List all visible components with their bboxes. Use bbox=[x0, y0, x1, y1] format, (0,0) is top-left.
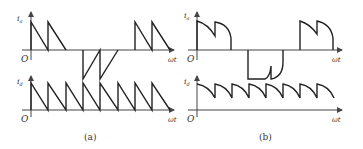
origin-label-bottom-a: O bbox=[21, 114, 29, 124]
y-label-bottom-a: id bbox=[17, 77, 23, 87]
panel-a: ia O ωt id O ωt (a) bbox=[17, 12, 177, 142]
y-label-top-b: ia bbox=[184, 11, 190, 21]
origin-label-top-b: O bbox=[187, 54, 195, 64]
origin-label-bottom-b: O bbox=[187, 114, 195, 124]
x-label-bottom-a: ωt bbox=[168, 116, 177, 124]
x-label-bottom-b: ωt bbox=[332, 116, 341, 124]
y-label-top-a: ia bbox=[17, 14, 23, 24]
caption-b: (b) bbox=[259, 132, 272, 142]
dc-current-wave-b bbox=[197, 84, 334, 98]
dc-current-wave-a bbox=[31, 83, 170, 110]
origin-label-top-a: O bbox=[21, 54, 29, 64]
y-label-bottom-b: id bbox=[184, 77, 190, 87]
panel-b: ia O ωt id O ωt (b) bbox=[184, 11, 342, 142]
caption-a: (a) bbox=[84, 132, 96, 142]
x-label-top-b: ωt bbox=[332, 56, 341, 64]
waveform-diagram: ia O ωt id O ωt (a) ia O ωt id O ωt (b) bbox=[0, 0, 363, 149]
x-label-top-a: ωt bbox=[168, 56, 177, 64]
